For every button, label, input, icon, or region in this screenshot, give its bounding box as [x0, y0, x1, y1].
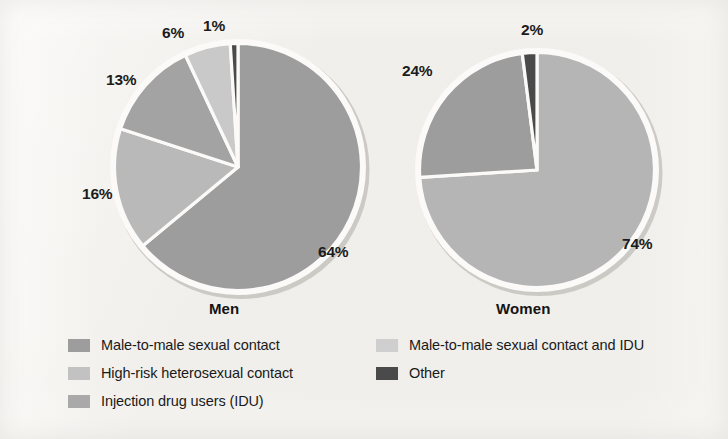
pie-women: 24% 2% 74% Women	[400, 0, 690, 300]
legend-item-high-risk-heterosexual-contact: High-risk heterosexual contact	[68, 359, 378, 387]
legend-swatch-icon	[376, 367, 398, 380]
legend-label: Other	[409, 365, 445, 381]
pie-women-label-other: 2%	[521, 21, 543, 39]
pie-men-label-high-risk-heterosexual-contact: 16%	[82, 185, 112, 203]
pie-men-label-other: 1%	[203, 17, 225, 35]
legend-item-other: Other	[376, 359, 676, 387]
pie-slice[interactable]	[420, 53, 538, 177]
legend-swatch-icon	[68, 339, 90, 352]
pie-men-label-injection-drug-users: 13%	[106, 71, 136, 89]
legend-label: Male-to-male sexual contact	[101, 337, 280, 353]
legend-item-male-to-male-sexual-contact: Male-to-male sexual contact	[68, 331, 378, 359]
legend-item-male-to-male-sexual-contact-and-idu: Male-to-male sexual contact and IDU	[376, 331, 676, 359]
legend-column-right: Male-to-male sexual contact and IDU Othe…	[376, 331, 676, 387]
legend-label: Injection drug users (IDU)	[101, 393, 264, 409]
pie-men: 16% 13% 6% 1% 64% Men	[92, 0, 392, 300]
pie-women-label-injection-drug-users: 24%	[402, 62, 432, 80]
legend-item-injection-drug-users: Injection drug users (IDU)	[68, 387, 378, 415]
legend-label: Male-to-male sexual contact and IDU	[409, 337, 644, 353]
pie-men-label-male-to-male-sexual-contact: 64%	[318, 243, 348, 261]
pie-women-title: Women	[496, 300, 550, 317]
pie-women-label-high-risk-heterosexual-contact: 74%	[622, 235, 652, 253]
legend-column-left: Male-to-male sexual contact High-risk he…	[68, 331, 378, 415]
legend-label: High-risk heterosexual contact	[101, 365, 293, 381]
pie-women-svg	[400, 0, 690, 300]
legend-swatch-icon	[376, 339, 398, 352]
pie-men-label-male-to-male-and-idu: 6%	[162, 24, 184, 42]
legend-swatch-icon	[68, 395, 90, 408]
chart-men: 16% 13% 6% 1% 64% Men	[92, 0, 392, 300]
pie-chart-figure: 16% 13% 6% 1% 64% Men 24% 2% 74% Women M…	[0, 0, 728, 439]
legend-swatch-icon	[68, 367, 90, 380]
pie-men-title: Men	[209, 300, 239, 317]
chart-women: 24% 2% 74% Women	[400, 0, 690, 300]
